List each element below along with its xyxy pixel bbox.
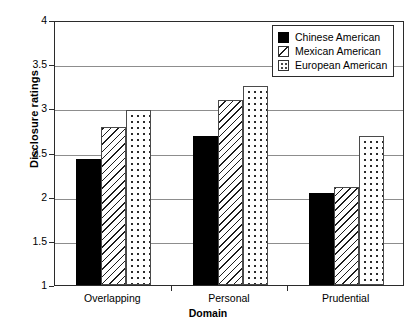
- y-tick-label: 4: [7, 15, 47, 25]
- legend: Chinese AmericanMexican AmericanEuropean…: [272, 25, 394, 77]
- bar: [309, 193, 334, 285]
- legend-swatch-icon: [278, 32, 289, 43]
- x-category-label: Personal: [169, 292, 289, 304]
- bar: [126, 110, 151, 285]
- y-tick-mark: [49, 286, 54, 287]
- x-tick-mark: [287, 286, 288, 291]
- y-tick-label: 1.5: [7, 236, 47, 246]
- bar: [76, 159, 101, 285]
- y-tick-label: 1: [7, 280, 47, 290]
- x-category-label: Prudential: [286, 292, 406, 304]
- bar: [334, 187, 359, 285]
- bar: [101, 127, 126, 285]
- legend-item: European American: [278, 58, 387, 72]
- legend-label: European American: [295, 59, 387, 71]
- bar: [243, 86, 268, 285]
- legend-swatch-icon: [278, 60, 289, 71]
- x-axis-title: Domain: [0, 307, 416, 319]
- bar-chart-figure: Disclosure ratings 11.522.533.54 Overlap…: [0, 0, 416, 331]
- x-tick-mark: [171, 286, 172, 291]
- legend-label: Chinese American: [295, 31, 380, 43]
- x-category-label: Overlapping: [52, 292, 172, 304]
- legend-item: Mexican American: [278, 44, 387, 58]
- legend-item: Chinese American: [278, 30, 387, 44]
- legend-swatch-icon: [278, 46, 289, 57]
- legend-label: Mexican American: [295, 45, 381, 57]
- y-tick-label: 3.5: [7, 59, 47, 69]
- y-tick-label: 2.5: [7, 148, 47, 158]
- y-tick-label: 2: [7, 192, 47, 202]
- bar: [193, 136, 218, 285]
- bar: [218, 100, 243, 286]
- y-tick-label: 3: [7, 103, 47, 113]
- bar: [359, 136, 384, 285]
